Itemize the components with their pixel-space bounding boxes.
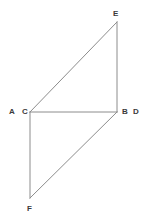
geometry-figure: EACBDF <box>0 0 148 223</box>
vertex-label-c: C <box>22 108 28 116</box>
vertex-label-e: E <box>113 10 118 18</box>
segment-f-b <box>30 112 117 198</box>
vertex-label-d: D <box>133 108 139 116</box>
vertex-label-a: A <box>9 108 15 116</box>
vertex-label-f: F <box>27 205 32 213</box>
segment-c-e <box>30 22 117 112</box>
segments-group <box>30 22 117 198</box>
vertex-label-b: B <box>122 108 128 116</box>
